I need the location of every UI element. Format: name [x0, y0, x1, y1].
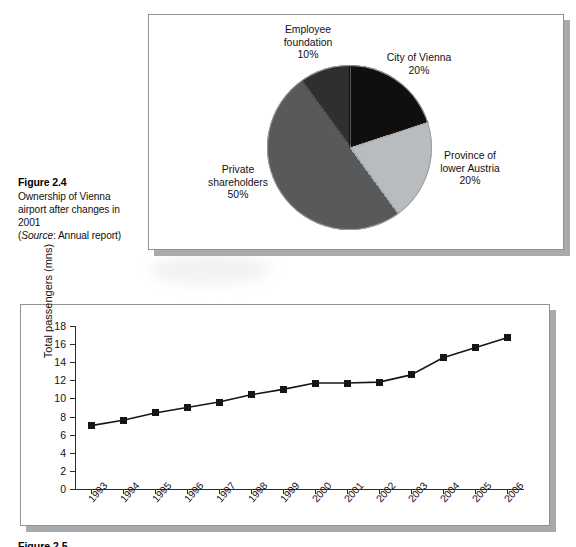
- data-point-2005: [472, 344, 479, 351]
- data-point-1996: [184, 404, 191, 411]
- y-tick-label-wrap-4: 4: [44, 448, 66, 459]
- data-point-1998: [248, 391, 255, 398]
- data-point-2004: [440, 354, 447, 361]
- y-tick-label-18: 18: [46, 321, 66, 332]
- figure-source: (Source: Annual report): [18, 229, 148, 242]
- figure-number: Figure 2.4: [18, 176, 148, 190]
- y-tick-label-wrap-0: 0: [44, 484, 66, 495]
- caption-line-3: 2001: [18, 216, 148, 229]
- line-plot-area: [75, 326, 523, 489]
- data-point-2003: [408, 371, 415, 378]
- data-point-2001: [344, 380, 351, 387]
- y-tick-label-16: 16: [46, 339, 66, 350]
- y-tick-label-wrap-6: 6: [44, 430, 66, 441]
- data-point-2006: [504, 334, 511, 341]
- pie-label-private-value: 50%: [186, 189, 290, 202]
- y-tick-label-wrap-14: 14: [44, 357, 66, 368]
- y-tick-label-wrap-8: 8: [44, 412, 66, 423]
- data-point-2002: [376, 379, 383, 386]
- data-point-2000: [312, 380, 319, 387]
- pie-label-private-line1: Private: [186, 164, 290, 177]
- source-text: : Annual report): [53, 230, 121, 241]
- pie-label-province-value: 20%: [418, 175, 522, 188]
- y-tick-label-8: 8: [46, 412, 66, 423]
- pie-label-city-of-vienna: City of Vienna 20%: [370, 52, 468, 77]
- y-tick-label-6: 6: [46, 430, 66, 441]
- figure-caption-block: Figure 2.4 Ownership of Vienna airport a…: [18, 176, 148, 242]
- pie-label-employee-value: 10%: [262, 49, 354, 62]
- y-tick-0: [70, 489, 75, 490]
- y-tick-label-12: 12: [46, 375, 66, 386]
- data-point-1994: [120, 417, 127, 424]
- page-artifact-1: [150, 255, 270, 285]
- data-point-1995: [152, 409, 159, 416]
- y-tick-label-0: 0: [46, 484, 66, 495]
- pie-label-private-line2: shareholders: [186, 177, 290, 190]
- y-tick-label-14: 14: [46, 357, 66, 368]
- next-figure-number: Figure 2.5: [18, 540, 68, 547]
- data-point-1993: [88, 422, 95, 429]
- y-tick-label-wrap-18: 18: [44, 321, 66, 332]
- pie-label-province-line1: Province of: [418, 150, 522, 163]
- data-point-1997: [216, 399, 223, 406]
- pie-label-private-shareholders: Private shareholders 50%: [186, 164, 290, 202]
- pie-label-employee-line1: Employee: [262, 24, 354, 37]
- y-tick-label-wrap-16: 16: [44, 339, 66, 350]
- caption-line-1: Ownership of Vienna: [18, 190, 148, 203]
- pie-separator-0: [350, 65, 351, 148]
- pie-chart-panel: [148, 14, 564, 250]
- pie-label-employee-foundation: Employee foundation 10%: [262, 24, 354, 62]
- y-tick-label-wrap-10: 10: [44, 393, 66, 404]
- passenger-series-line: [75, 326, 523, 489]
- y-tick-label-wrap-12: 12: [44, 375, 66, 386]
- pie-label-vienna-value: 20%: [370, 65, 468, 78]
- pie-label-employee-line2: foundation: [262, 37, 354, 50]
- data-point-1999: [280, 386, 287, 393]
- caption-line-2: airport after changes in: [18, 203, 148, 216]
- y-tick-label-10: 10: [46, 393, 66, 404]
- y-tick-label-wrap-2: 2: [44, 466, 66, 477]
- pie-label-province-line2: lower Austria: [418, 163, 522, 176]
- figure-caption-text: Ownership of Vienna airport after change…: [18, 190, 148, 230]
- pie-chart: [267, 65, 432, 230]
- pie-label-vienna-line1: City of Vienna: [370, 52, 468, 65]
- y-tick-label-4: 4: [46, 448, 66, 459]
- pie-label-province-lower-austria: Province of lower Austria 20%: [418, 150, 522, 188]
- y-tick-label-2: 2: [46, 466, 66, 477]
